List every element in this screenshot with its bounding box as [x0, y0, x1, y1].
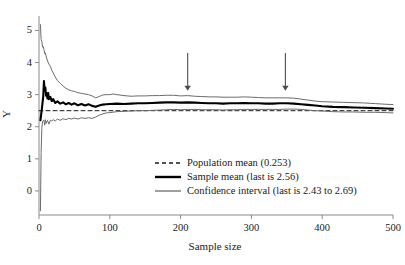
chart-legend: Population mean (0.253) Sample mean (las…: [155, 156, 357, 197]
y-tick-label: 4: [10, 57, 32, 68]
dashed-line-swatch: [155, 157, 181, 169]
chart-figure: 012345 0100200300400500 Y Sample size Po…: [0, 0, 405, 265]
x-tick-label: 300: [244, 223, 260, 234]
legend-label-confidence-interval: Confidence interval (last is 2.43 to 2.6…: [187, 185, 357, 197]
arrow-marker-2-head: [282, 86, 288, 91]
x-axis-ticks: [39, 215, 393, 219]
y-axis-ticks: [35, 30, 39, 190]
y-tick-label: 0: [10, 186, 32, 197]
thick-line-swatch: [155, 171, 181, 183]
annotation-arrows-group: [184, 53, 288, 91]
legend-label-sample-mean: Sample mean (last is 2.56): [187, 171, 299, 183]
x-tick-label: 100: [102, 223, 118, 234]
y-tick-label: 2: [10, 121, 32, 132]
legend-item-population-mean[interactable]: Population mean (0.253): [155, 156, 357, 169]
series-line: [40, 81, 393, 120]
x-tick-label: 0: [36, 223, 41, 234]
x-tick-label: 400: [314, 223, 330, 234]
chart-plot-area: [0, 0, 405, 265]
series-line: [40, 25, 393, 105]
legend-item-sample-mean[interactable]: Sample mean (last is 2.56): [155, 170, 357, 183]
x-tick-label: 500: [385, 223, 401, 234]
y-tick-label: 3: [10, 89, 32, 100]
legend-item-confidence-interval[interactable]: Confidence interval (last is 2.43 to 2.6…: [155, 184, 357, 197]
arrow-marker-1-head: [184, 86, 190, 91]
legend-label-population-mean: Population mean (0.253): [187, 157, 291, 169]
y-tick-label: 5: [10, 25, 32, 36]
x-tick-label: 200: [173, 223, 189, 234]
x-axis-title: Sample size: [189, 240, 242, 252]
thin-line-swatch: [155, 185, 181, 197]
y-tick-label: 1: [10, 154, 32, 165]
y-axis-title: Y: [0, 110, 12, 118]
